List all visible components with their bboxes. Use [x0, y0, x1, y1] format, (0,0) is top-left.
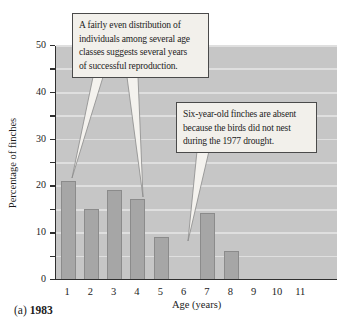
x-tick-label-11: 11 [289, 286, 311, 298]
x-tick-label-6: 6 [173, 286, 195, 298]
callout-line: because the birds did not nest [183, 122, 310, 136]
figure-age-structure-1983: Percentage of finches 010203040501234567… [0, 0, 346, 333]
x-axis-title: Age (years) [172, 299, 221, 310]
plot-area [55, 46, 337, 280]
y-tick-45 [50, 68, 55, 69]
y-tick-5 [50, 256, 55, 257]
y-tick-35 [50, 115, 55, 116]
panel-year: 1983 [30, 304, 53, 316]
y-tick-label-30: 30 [24, 133, 46, 145]
callout-line: of successful reproduction. [79, 60, 202, 74]
y-tick-label-40: 40 [24, 86, 46, 98]
x-tick-label-9: 9 [243, 286, 265, 298]
gridline-20 [56, 185, 337, 187]
callout-line: individuals among several age [79, 33, 202, 47]
x-tick-label-10: 10 [266, 286, 288, 298]
bar-age-2 [84, 209, 99, 279]
x-tick-label-7: 7 [196, 286, 218, 298]
callout-line: A fairly even distribution of [79, 19, 202, 33]
bar-age-3 [107, 190, 122, 279]
y-tick-label-10: 10 [24, 226, 46, 238]
y-tick-label-50: 50 [24, 39, 46, 51]
callout-line: classes suggests several years [79, 46, 202, 60]
callout-even-distribution: A fairly even distribution of individual… [72, 13, 209, 78]
callout-line: Six-year-old finches are absent [183, 108, 310, 122]
x-tick-label-8: 8 [219, 286, 241, 298]
x-tick-label-2: 2 [79, 286, 101, 298]
panel-letter: (a) [14, 304, 27, 316]
y-tick-50 [50, 45, 55, 46]
y-axis-title: Percentage of finches [7, 46, 21, 280]
bar-age-8 [224, 251, 239, 279]
callout-drought-absence: Six-year-old finches are absent because … [176, 102, 317, 153]
bar-age-5 [154, 237, 169, 279]
bar-age-4 [130, 199, 145, 279]
y-tick-label-0: 0 [24, 273, 46, 285]
y-tick-label-20: 20 [24, 179, 46, 191]
gridline-25 [56, 162, 337, 164]
y-tick-15 [50, 209, 55, 210]
y-tick-40 [50, 92, 55, 93]
callout-line: during the 1977 drought. [183, 135, 310, 149]
x-tick-label-5: 5 [149, 286, 171, 298]
y-tick-0 [50, 279, 55, 280]
x-tick-label-4: 4 [126, 286, 148, 298]
gridline-40 [56, 92, 337, 94]
x-tick-label-3: 3 [103, 286, 125, 298]
y-tick-25 [50, 162, 55, 163]
bar-age-7 [200, 213, 215, 279]
y-tick-20 [50, 185, 55, 186]
bar-age-1 [61, 181, 76, 279]
y-tick-10 [50, 232, 55, 233]
panel-label: (a) 1983 [14, 304, 53, 316]
x-tick-label-1: 1 [56, 286, 78, 298]
y-tick-30 [50, 139, 55, 140]
